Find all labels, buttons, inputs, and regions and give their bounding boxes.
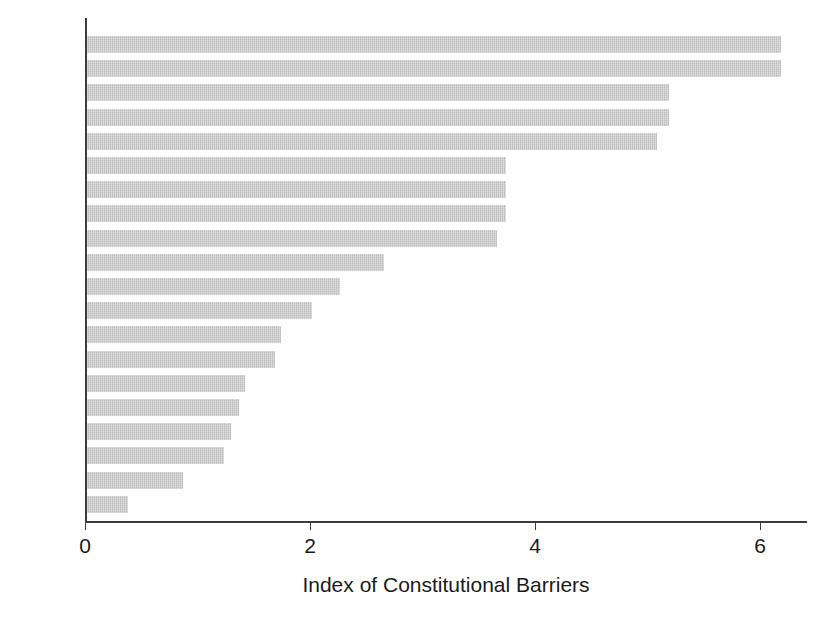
bar [87, 181, 506, 198]
x-axis-title: Index of Constitutional Barriers [85, 573, 807, 597]
bar [87, 133, 657, 150]
bar [87, 351, 275, 368]
x-tick-mark [535, 523, 536, 530]
bar [87, 36, 781, 53]
bar [87, 60, 781, 77]
bar [87, 205, 506, 222]
bar [87, 302, 312, 319]
x-axis-line [85, 521, 807, 523]
x-tick-mark [760, 523, 761, 530]
bar [87, 326, 281, 343]
x-tick-mark [85, 523, 86, 530]
bar [87, 109, 669, 126]
bar [87, 375, 245, 392]
bar [87, 399, 239, 416]
plot-area: SPAGERSWIPORITAAUTGREFRABELJPNIREAUSSWEC… [0, 0, 822, 629]
x-tick-label: 2 [304, 534, 316, 558]
bar [87, 447, 224, 464]
bar [87, 278, 340, 295]
x-tick-label: 4 [529, 534, 541, 558]
x-tick-label: 6 [754, 534, 766, 558]
bar-chart: SPAGERSWIPORITAAUTGREFRABELJPNIREAUSSWEC… [0, 0, 822, 629]
bar [87, 230, 497, 247]
bar [87, 157, 506, 174]
x-tick-label: 0 [79, 534, 91, 558]
bar [87, 423, 231, 440]
bar [87, 84, 669, 101]
x-tick-mark [310, 523, 311, 530]
bar [87, 254, 384, 271]
bar [87, 472, 183, 489]
bar [87, 496, 128, 513]
